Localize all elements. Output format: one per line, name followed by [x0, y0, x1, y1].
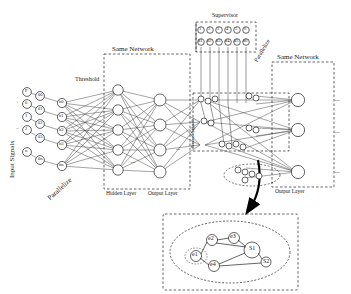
supervisor-top-5: 5 — [235, 26, 237, 31]
label-input-signals: Input Signals — [8, 141, 16, 178]
supervisor-mid-4: d4 — [225, 38, 230, 43]
label-supervisor: Supervisor — [212, 12, 238, 18]
threshold-node-label-3: θ3 — [38, 134, 42, 139]
input-node-label-1: 1 — [25, 113, 27, 118]
threshold-node-label-1: θ1 — [38, 106, 42, 111]
threshold-node-label-2: θ2 — [38, 120, 42, 125]
figure-root: Input Signals Threshold Parallelize Para… — [0, 0, 351, 294]
label-threshold: Threshold — [75, 76, 99, 82]
label-neural-signals: Neural Signals — [190, 118, 195, 148]
input-sign-plus: + — [16, 100, 19, 105]
dots-right-3: ... — [335, 168, 340, 174]
inset-node-e4: e4 — [210, 261, 216, 267]
hidden-pre-label-2: h2 — [59, 127, 64, 132]
inset-node-e1: e1 — [192, 251, 198, 257]
supervisor-mid-1: d1 — [198, 38, 203, 43]
input-node-label-n: n — [25, 148, 27, 153]
dots-hidden: ... — [131, 158, 136, 164]
input-node-label-0: 0 — [25, 100, 27, 105]
supervisor-top-6: 6 — [244, 26, 246, 31]
inset-ellipse — [170, 221, 290, 283]
supervisor-mid-2: d2 — [207, 38, 212, 43]
input-node-label-2: 2 — [25, 126, 27, 131]
inset-node-e2: e2 — [208, 235, 214, 241]
supervisor-top-4: 4 — [226, 26, 228, 31]
supervisor-mid-5: d5 — [234, 38, 239, 43]
input-sign-minus: − — [16, 126, 19, 131]
supervisor-mid-3: d3 — [216, 38, 221, 43]
hidden-pre-label-1: h1 — [59, 113, 64, 118]
label-output-layer-1: Output Layer — [148, 190, 177, 196]
dots-right-2: ... — [335, 128, 340, 134]
input-node-label-P: P — [25, 88, 28, 93]
dots-mid: ... — [176, 145, 181, 151]
label-same-network-1: Same Network — [112, 45, 154, 53]
supervisor-top-1: 1 — [199, 26, 201, 31]
zoom-arrow — [250, 160, 260, 208]
threshold-node-label-0: θ0 — [38, 92, 42, 97]
hidden-pre-label-0: h0 — [59, 99, 64, 104]
edges-middle-to-right — [205, 100, 296, 172]
label-hidden-layer: Hidden Layer — [106, 190, 136, 196]
supervisor-drop-lines — [201, 47, 246, 145]
inset-node-e3: e3 — [230, 233, 236, 239]
supervisor-mid-6: d6 — [243, 38, 248, 43]
hidden-pre-label-n: hn — [59, 162, 64, 167]
label-output-layer-2: Output Layer — [275, 188, 304, 194]
dots-right-1: ... — [335, 96, 340, 102]
label-same-network-2: Same Network — [277, 53, 319, 61]
supervisor-top-3: 3 — [217, 26, 219, 31]
inset-node-s1: S1 — [249, 245, 255, 251]
threshold-node-label-n: θn — [38, 156, 42, 161]
inset-node-s2: S2 — [263, 258, 269, 264]
hidden-pre-label-3: h3 — [59, 141, 64, 146]
edges-hidden-to-output — [118, 90, 160, 172]
supervisor-top-2: 2 — [208, 26, 210, 31]
